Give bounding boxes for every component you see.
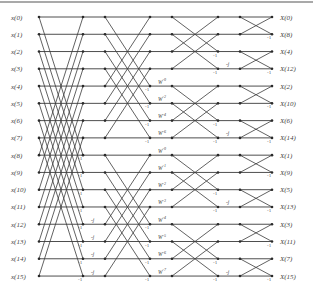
node-dot	[239, 68, 242, 71]
node-dot	[171, 85, 174, 88]
negation-marker: -1	[267, 35, 272, 40]
negation-marker: -1	[213, 53, 218, 58]
node-dot	[38, 257, 41, 260]
node-dot	[171, 223, 174, 226]
node-dot	[104, 137, 107, 140]
node-dot	[171, 206, 174, 209]
node-dot	[38, 119, 41, 122]
node-dot	[171, 171, 174, 174]
negation-marker: -1	[213, 208, 218, 213]
negation-marker: -1	[145, 122, 150, 127]
input-label: x(15)	[10, 273, 26, 281]
input-label: x(3)	[10, 65, 23, 73]
node-dot	[239, 257, 242, 260]
twiddle-label: W-6	[158, 129, 166, 137]
node-dot	[104, 171, 107, 174]
input-label: x(5)	[10, 100, 23, 108]
node-dot	[239, 188, 242, 191]
output-label: X(4)	[279, 48, 293, 56]
output-label: X(1)	[279, 152, 293, 160]
node-dot	[171, 119, 174, 122]
node-dot	[271, 50, 274, 53]
twiddle-label: W-4	[158, 112, 166, 120]
node-dot	[239, 119, 242, 122]
node-dot	[271, 188, 274, 191]
wires-layer	[39, 17, 272, 276]
nodes-layer	[38, 16, 274, 278]
node-dot	[171, 188, 174, 191]
node-dot	[239, 171, 242, 174]
output-label: X(7)	[279, 255, 293, 263]
node-dot	[38, 50, 41, 53]
node-dot	[38, 68, 41, 71]
node-dot	[104, 188, 107, 191]
node-dot	[38, 137, 41, 140]
node-dot	[38, 275, 41, 278]
negation-marker: -1	[78, 191, 83, 196]
output-label: X(0)	[279, 14, 293, 22]
input-label: x(11)	[10, 203, 26, 211]
negation-marker: -1	[145, 104, 150, 109]
node-dot	[104, 50, 107, 53]
node-dot	[239, 85, 242, 88]
negation-marker: -1	[267, 208, 272, 213]
node-dot	[271, 16, 274, 19]
node-dot	[217, 154, 220, 157]
node-dot	[149, 188, 152, 191]
input-label: x(12)	[10, 221, 26, 229]
input-label: x(4)	[10, 83, 23, 91]
twiddle-label: -j	[226, 199, 230, 205]
node-dot	[171, 33, 174, 36]
output-label: X(5)	[279, 186, 293, 194]
input-label: x(9)	[10, 169, 23, 177]
twiddle-label: W-3	[158, 198, 166, 206]
negation-marker: -1	[78, 173, 83, 178]
negation-marker: -1	[267, 243, 272, 248]
negation-marker: -1	[267, 104, 272, 109]
node-dot	[271, 223, 274, 226]
negation-marker: -1	[213, 139, 218, 144]
twiddle-label: -j	[91, 234, 95, 240]
input-label: x(13)	[10, 238, 26, 246]
input-label: x(2)	[10, 48, 23, 56]
output-label: X(10)	[279, 100, 297, 108]
node-dot	[104, 68, 107, 71]
node-dot	[239, 206, 242, 209]
node-dot	[104, 206, 107, 209]
twiddle-label: W-5	[158, 233, 166, 241]
node-dot	[104, 16, 107, 19]
node-dot	[149, 206, 152, 209]
negation-marker: -1	[267, 70, 272, 75]
negation-marker: -1	[267, 173, 272, 178]
node-dot	[82, 137, 85, 140]
twiddle-label: -j	[91, 269, 95, 275]
negation-marker: -1	[145, 243, 150, 248]
node-dot	[82, 85, 85, 88]
node-dot	[38, 85, 41, 88]
node-dot	[38, 240, 41, 243]
node-dot	[149, 171, 152, 174]
negation-marker: -1	[78, 156, 83, 161]
twiddle-label: W-6	[158, 250, 166, 258]
twiddle-label: W-7	[158, 267, 167, 275]
twiddle-label: -j	[226, 269, 230, 275]
input-label: x(0)	[10, 14, 23, 22]
node-dot	[171, 68, 174, 71]
node-dot	[171, 257, 174, 260]
twiddle-label: W-0	[158, 77, 166, 85]
node-dot	[217, 33, 220, 36]
twiddle-label: -j	[91, 217, 95, 223]
node-dot	[82, 68, 85, 71]
negation-marker: -1	[78, 277, 83, 282]
node-dot	[271, 119, 274, 122]
node-dot	[82, 102, 85, 105]
node-dot	[104, 85, 107, 88]
twiddle-label: W-0	[158, 146, 166, 154]
node-dot	[104, 154, 107, 157]
node-dot	[171, 16, 174, 19]
node-dot	[217, 16, 220, 19]
node-dot	[149, 16, 152, 19]
node-dot	[239, 223, 242, 226]
node-dot	[104, 275, 107, 278]
node-dot	[104, 102, 107, 105]
